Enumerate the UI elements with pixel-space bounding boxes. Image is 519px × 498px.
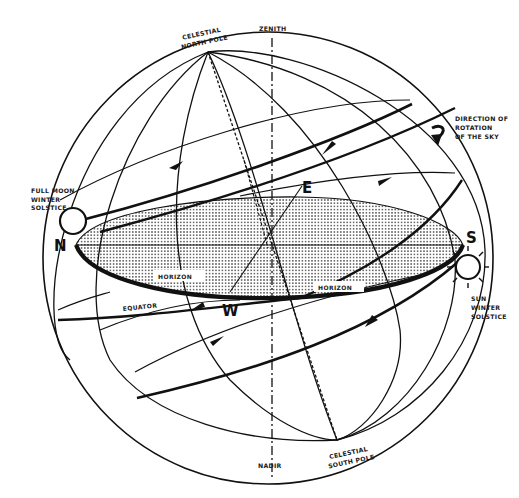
svg-text:ROTATION: ROTATION bbox=[455, 124, 492, 131]
label-zenith: ZENITH bbox=[259, 25, 286, 32]
moon-circle-icon bbox=[60, 208, 86, 234]
label-horizon-left: HORIZON bbox=[154, 270, 204, 281]
label-south: S bbox=[466, 229, 477, 247]
celestial-sphere-diagram: CELESTIAL NORTH POLE ZENITH DIRECTION OF… bbox=[0, 0, 519, 498]
label-equator: EQUATOR bbox=[122, 301, 157, 312]
svg-text:HORIZON: HORIZON bbox=[158, 273, 192, 280]
label-full-moon: FULL MOON WINTER SOLSTICE bbox=[31, 187, 75, 211]
label-rotation: DIRECTION OF ROTATION OF THE SKY bbox=[455, 115, 508, 140]
svg-text:HORIZON: HORIZON bbox=[318, 284, 352, 291]
curved-arrow-icon bbox=[431, 126, 443, 146]
label-celestial-south-pole: CELESTIAL SOUTH POLE bbox=[326, 444, 376, 469]
label-celestial-north-pole: CELESTIAL NORTH POLE bbox=[179, 25, 229, 51]
svg-text:WINTER: WINTER bbox=[471, 304, 500, 311]
svg-text:OF THE SKY: OF THE SKY bbox=[455, 133, 499, 140]
horizon-plane bbox=[76, 197, 463, 298]
svg-text:WINTER: WINTER bbox=[31, 196, 60, 203]
svg-text:FULL MOON: FULL MOON bbox=[31, 187, 75, 194]
label-north: N bbox=[54, 237, 67, 255]
label-east: E bbox=[302, 179, 312, 197]
svg-text:SOLSTICE: SOLSTICE bbox=[471, 313, 507, 320]
svg-text:SUN: SUN bbox=[471, 295, 487, 302]
label-nadir: NADIR bbox=[258, 462, 282, 469]
svg-text:DIRECTION OF: DIRECTION OF bbox=[455, 115, 508, 122]
svg-text:SOLSTICE: SOLSTICE bbox=[31, 204, 67, 211]
label-horizon-right: HORIZON bbox=[314, 281, 364, 292]
label-west: W bbox=[222, 302, 239, 320]
